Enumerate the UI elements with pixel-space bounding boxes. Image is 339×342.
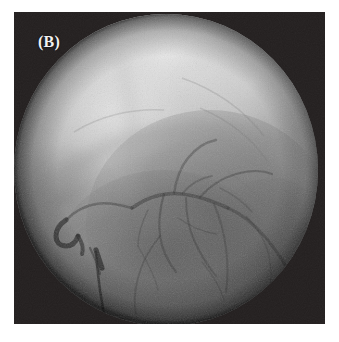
corner-grain bbox=[14, 12, 325, 324]
angiogram-image bbox=[14, 12, 325, 324]
angiogram-frame: (B) bbox=[14, 12, 325, 324]
figure-panel: (B) bbox=[0, 0, 339, 342]
panel-label: (B) bbox=[38, 34, 60, 50]
